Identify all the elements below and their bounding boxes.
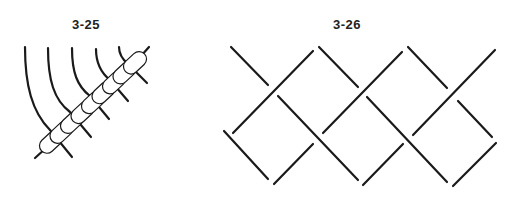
lattice-segment <box>458 101 492 137</box>
lattice-segment <box>453 143 496 186</box>
figure-3-26 <box>224 47 496 186</box>
lattice-segment <box>224 131 268 179</box>
lattice-segment <box>408 47 447 88</box>
diagram-canvas <box>0 0 519 200</box>
lattice-segment <box>413 50 495 135</box>
lattice-segment <box>274 144 313 184</box>
lattice-segment <box>363 144 403 185</box>
lattice-segment <box>319 47 358 87</box>
lattice-segment <box>231 47 268 85</box>
bead-chain <box>36 48 149 156</box>
